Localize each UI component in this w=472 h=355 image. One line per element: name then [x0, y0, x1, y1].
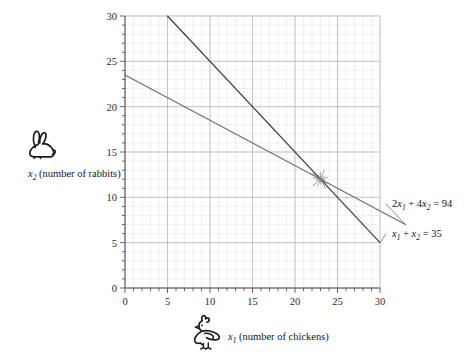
chicken-icon: [188, 312, 226, 355]
x-tick-label: 0: [122, 296, 127, 307]
chart-canvas: 051015202530 051015202530 x2 (number of …: [0, 0, 472, 355]
x-tick-label: 5: [165, 296, 170, 307]
x-tick-label: 20: [290, 296, 301, 307]
y-tick-label: 5: [112, 237, 117, 248]
plot-svg: [125, 16, 380, 288]
x-tick-label: 25: [332, 296, 343, 307]
rabbit-icon: [22, 126, 62, 166]
y-tick-label: 30: [107, 11, 118, 22]
x-tick-label: 15: [247, 296, 258, 307]
y-tick-label: 25: [107, 56, 118, 67]
equation-label-shallow-line: 2x1 + 4x2 = 94: [392, 198, 452, 212]
y-tick-label: 15: [107, 147, 118, 158]
plot-area: [125, 16, 380, 288]
x-tick-label: 10: [205, 296, 216, 307]
series-lines: [125, 16, 406, 243]
x-tick-label: 30: [375, 296, 386, 307]
y-tick-label: 10: [107, 192, 118, 203]
x-axis-label: x1 (number of chickens): [228, 331, 329, 345]
equation-label-steep-line: x1 + x2 = 35: [392, 228, 442, 242]
y-axis-label: x2 (number of rabbits): [28, 168, 121, 182]
major-gridlines: [125, 16, 380, 288]
y-tick-label: 0: [112, 283, 117, 294]
y-tick-label: 20: [107, 101, 118, 112]
